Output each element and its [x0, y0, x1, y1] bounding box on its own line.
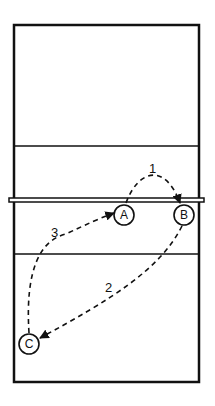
volleyball-court-diagram: 1 2 3 A B C	[0, 0, 215, 406]
player-a: A	[114, 205, 134, 225]
svg-text:C: C	[25, 337, 34, 351]
player-b: B	[174, 205, 194, 225]
path-3	[28, 213, 114, 333]
net	[9, 198, 204, 202]
svg-text:B: B	[180, 208, 188, 222]
player-c: C	[19, 334, 39, 354]
path-label-2: 2	[105, 280, 112, 295]
path-label-3: 3	[51, 225, 58, 240]
court-boundary	[14, 25, 199, 382]
path-label-1: 1	[149, 161, 156, 176]
svg-text:A: A	[120, 208, 128, 222]
